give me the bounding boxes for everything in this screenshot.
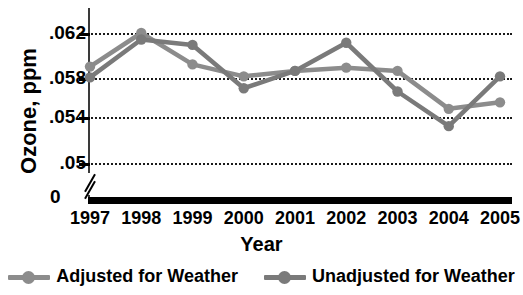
legend-item-0[interactable]: Adjusted for Weather [8, 266, 238, 287]
x-tick-label-1999: 1999 [172, 208, 212, 229]
x-tick-label-2004: 2004 [429, 208, 469, 229]
data-point [85, 72, 95, 82]
data-point [341, 38, 351, 48]
y-tick-label-062: .062 [30, 22, 86, 44]
data-series-layer [88, 8, 512, 206]
legend-item-1[interactable]: Unadjusted for Weather [264, 266, 515, 287]
x-axis-title: Year [0, 233, 523, 256]
data-point [495, 97, 505, 107]
data-point [85, 61, 95, 71]
data-point [290, 66, 300, 76]
data-point [495, 71, 505, 81]
x-tick-label-2002: 2002 [326, 208, 366, 229]
x-tick-label-2000: 2000 [224, 208, 264, 229]
data-point [239, 71, 249, 81]
data-point [341, 62, 351, 72]
ozone-trend-chart: Ozone, ppm .062 .058 .054 .05 0 19971998… [0, 0, 523, 295]
series-line-1 [90, 40, 500, 127]
y-axis-zero-label: 0 [50, 186, 61, 208]
data-point [187, 59, 197, 69]
plot-area [88, 8, 512, 206]
y-tick-label-054: .054 [30, 106, 86, 128]
y-tick-label-058: .058 [30, 67, 86, 89]
data-point [444, 121, 454, 131]
data-point [444, 104, 454, 114]
legend-marker-icon [264, 270, 306, 284]
data-point [239, 83, 249, 93]
legend-marker-icon [8, 270, 50, 284]
x-tick-label-2005: 2005 [480, 208, 520, 229]
x-tick-label-2003: 2003 [377, 208, 417, 229]
x-tick-label-2001: 2001 [275, 208, 315, 229]
data-point [136, 34, 146, 44]
chart-legend: Adjusted for WeatherUnadjusted for Weath… [0, 266, 523, 287]
data-point [187, 40, 197, 50]
legend-label: Adjusted for Weather [56, 266, 238, 287]
legend-label: Unadjusted for Weather [312, 266, 515, 287]
data-point [392, 86, 402, 96]
x-tick-label-1997: 1997 [70, 208, 110, 229]
data-point [392, 66, 402, 76]
x-tick-label-1998: 1998 [121, 208, 161, 229]
y-tick-label-05: .05 [30, 152, 86, 174]
